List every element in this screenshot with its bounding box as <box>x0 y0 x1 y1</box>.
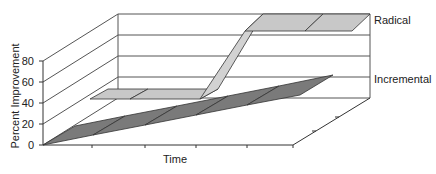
x-axis-title: Time <box>150 153 200 165</box>
y-axis <box>39 61 43 145</box>
legend-incremental: Incremental <box>374 73 431 85</box>
chart-3d-ribbon: 0 20 40 60 80 Percent Improvement Time R… <box>0 0 436 174</box>
y-axis-title: Percent Improvement <box>9 41 21 151</box>
series-incremental <box>43 75 333 145</box>
chart-plot-area <box>0 0 436 174</box>
legend-radical: Radical <box>374 14 411 26</box>
